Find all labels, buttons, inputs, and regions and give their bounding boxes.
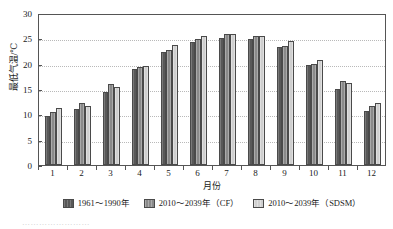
chart-legend: 1961～1990年2010～2039年（CF）2010～2039年（SDSM） — [38, 196, 386, 210]
y-tick-mark — [38, 90, 42, 91]
x-tick-label: 11 — [338, 168, 347, 179]
legend-swatch-icon — [63, 199, 74, 208]
legend-label: 2010～2039年（CF） — [159, 198, 239, 208]
x-tick-label: 8 — [253, 168, 258, 179]
bar — [172, 45, 178, 165]
legend-label: 1961～1990年 — [78, 198, 130, 208]
bar — [375, 103, 381, 165]
y-tick-mark — [38, 14, 42, 15]
y-tick-mark — [38, 115, 42, 116]
x-tick-label: 3 — [108, 168, 113, 179]
plot-area — [38, 14, 386, 166]
x-tick-label: 1 — [50, 168, 55, 179]
y-tick-label: 10 — [23, 111, 32, 120]
x-tick-label: 5 — [166, 168, 171, 179]
y-tick-mark — [38, 65, 42, 66]
legend-swatch-icon — [253, 199, 264, 208]
y-tick-label: 20 — [23, 60, 32, 69]
figure-container: 最低气温/℃ 051015202530 123456789101112 月份 1… — [0, 0, 393, 229]
x-tick-mark — [96, 166, 97, 170]
y-tick-label: 15 — [23, 86, 32, 95]
bar — [317, 60, 323, 165]
x-axis-title: 月份 — [38, 181, 386, 191]
x-tick-mark — [67, 166, 68, 170]
y-tick-label: 0 — [28, 162, 33, 171]
x-tick-mark — [154, 166, 155, 170]
x-tick-mark — [125, 166, 126, 170]
x-tick-label: 6 — [195, 168, 200, 179]
bar-group — [74, 15, 92, 165]
bar — [346, 83, 352, 165]
bar-group — [248, 15, 266, 165]
legend-item[interactable]: 2010～2039年（SDSM） — [253, 198, 361, 208]
bar — [230, 34, 236, 165]
bar-group — [132, 15, 150, 165]
x-tick-label: 9 — [282, 168, 287, 179]
x-tick-mark — [183, 166, 184, 170]
y-tick-mark — [38, 141, 42, 142]
bar — [143, 66, 149, 165]
x-tick-label: 12 — [367, 168, 376, 179]
y-axis-tick-labels: 051015202530 — [6, 14, 36, 166]
y-tick-label: 30 — [23, 10, 32, 19]
legend-label: 2010～2039年（SDSM） — [268, 198, 361, 208]
x-tick-label: 4 — [137, 168, 142, 179]
y-tick-label: 5 — [28, 136, 33, 145]
x-tick-mark — [241, 166, 242, 170]
bar-group — [364, 15, 382, 165]
bar — [259, 36, 265, 165]
x-tick-mark — [357, 166, 358, 170]
x-tick-mark — [328, 166, 329, 170]
x-tick-label: 7 — [224, 168, 229, 179]
bar-group — [161, 15, 179, 165]
bar — [56, 108, 62, 165]
x-tick-mark — [270, 166, 271, 170]
caption-remnant: …………………… — [22, 218, 382, 228]
bar-group — [190, 15, 208, 165]
bar — [201, 36, 207, 165]
y-tick-mark — [38, 39, 42, 40]
y-tick-label: 25 — [23, 35, 32, 44]
x-tick-mark — [38, 166, 39, 170]
bar-group — [306, 15, 324, 165]
bar — [85, 106, 91, 165]
bar-group — [45, 15, 63, 165]
x-tick-label: 2 — [79, 168, 84, 179]
x-tick-mark — [212, 166, 213, 170]
bar-group — [335, 15, 353, 165]
bar — [288, 41, 294, 165]
bar — [114, 87, 120, 165]
bar-group — [277, 15, 295, 165]
x-axis-tick-labels: 123456789101112 — [38, 168, 386, 182]
bar-group — [219, 15, 237, 165]
x-tick-mark — [299, 166, 300, 170]
x-tick-label: 10 — [309, 168, 318, 179]
legend-item[interactable]: 2010～2039年（CF） — [144, 198, 239, 208]
legend-item[interactable]: 1961～1990年 — [63, 198, 130, 208]
bar-group — [103, 15, 121, 165]
legend-swatch-icon — [144, 199, 155, 208]
